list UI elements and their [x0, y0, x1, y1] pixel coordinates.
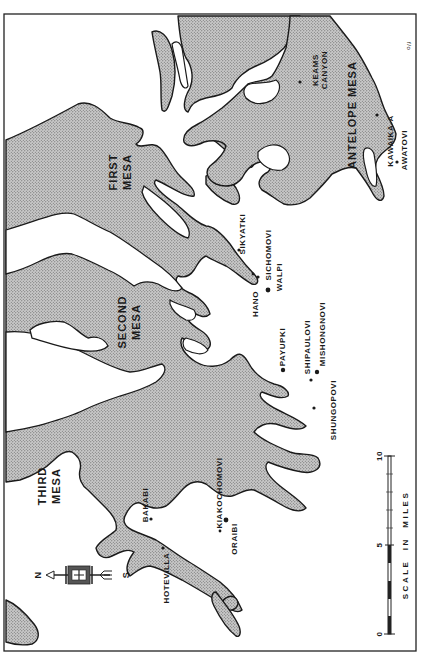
scale-tick-5: 5 — [375, 542, 384, 547]
scale-tick-0: 0 — [375, 631, 384, 636]
label-sikyatki: SIKYATKI — [238, 214, 247, 255]
village-dot-shipaulovi — [309, 378, 312, 381]
label-shipaulovi: SHIPAULOVI — [303, 320, 312, 374]
label-walpi: WALPI — [275, 263, 284, 291]
village-dot-oraibi — [224, 518, 229, 523]
label-sichomovi: SICHOMOVI — [264, 229, 273, 280]
village-dot-hano — [252, 273, 255, 276]
corner-mark: f/o — [406, 42, 412, 51]
label-awatovi: AWATOVI — [400, 130, 409, 170]
village-dot-payupki — [281, 368, 285, 372]
label-payupki: PAYUPKI — [278, 328, 287, 366]
label-hano: HANO — [251, 291, 260, 317]
village-dot-awatovi — [395, 160, 398, 163]
label-bakabi: BAKABI — [141, 488, 150, 523]
label-kiakochomovi: KIAKOCHOMOVI — [215, 457, 224, 528]
village-dot-kawaika-a — [375, 113, 378, 116]
village-dot-kiakochomovi — [219, 530, 222, 533]
scale-title: SCALE IN MILES — [401, 491, 410, 599]
hopi-mesas-map: f/o FIRST MESA SECOND MESA THIRD MESA AN… — [0, 0, 429, 659]
compass-north-label: N — [33, 571, 43, 578]
svg-text:FIRST: FIRST — [107, 154, 119, 191]
village-dot-hotevilla — [161, 546, 164, 549]
label-mishongnovi: MISHONGNOVI — [318, 302, 327, 366]
svg-text:THIRD: THIRD — [36, 467, 48, 506]
village-dot-shungopovi — [312, 406, 315, 409]
label-hotevilla: HOTEVILLA — [162, 553, 171, 604]
village-dot-walpi — [266, 288, 271, 293]
svg-text:KEAMS: KEAMS — [311, 54, 320, 86]
village-dot-sichomovi — [256, 275, 259, 278]
label-kawaika-a: KAWAIKA-A — [386, 115, 395, 167]
svg-text:MESA: MESA — [121, 154, 133, 190]
village-dot-keams-canyon — [298, 80, 301, 83]
label-shungopovi: SHUNGOPOVI — [329, 380, 338, 440]
label-antelope-mesa: ANTELOPE MESA — [346, 61, 358, 169]
label-keams-canyon: KEAMS CANYON — [311, 51, 329, 89]
svg-text:SECOND: SECOND — [116, 295, 128, 348]
compass-south-label: S — [121, 572, 131, 579]
svg-text:MESA: MESA — [50, 468, 62, 504]
scale-tick-10: 10 — [375, 451, 384, 461]
svg-text:CANYON: CANYON — [320, 51, 329, 89]
label-oraibi: ORAIBI — [230, 523, 239, 555]
village-dot-mishongnovi — [315, 370, 319, 374]
svg-text:MESA: MESA — [130, 304, 142, 340]
